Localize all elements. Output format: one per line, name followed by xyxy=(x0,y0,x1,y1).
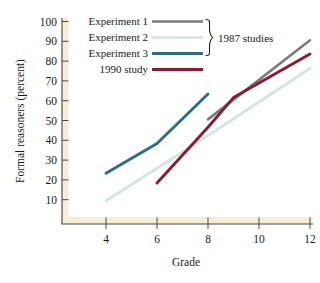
x-axis-band xyxy=(62,217,313,224)
x-tick-label: 6 xyxy=(154,233,160,245)
line-chart-svg: 100 90 80 70 60 50 40 30 20 10 4 6 8 10 … xyxy=(0,0,320,283)
y-tick-label: 10 xyxy=(46,194,58,206)
legend-label-experiment-1: Experiment 1 xyxy=(88,15,148,27)
legend-label-experiment-3: Experiment 3 xyxy=(88,47,148,59)
y-tick-label: 60 xyxy=(46,95,58,107)
legend-label-1990-study: 1990 study xyxy=(99,63,148,75)
y-tick-label: 70 xyxy=(46,75,58,87)
x-tick-label: 8 xyxy=(205,233,211,245)
legend-group-label: 1987 studies xyxy=(218,32,273,44)
x-axis-title: Grade xyxy=(172,256,200,268)
chart-container: 100 90 80 70 60 50 40 30 20 10 4 6 8 10 … xyxy=(0,0,320,283)
y-tick-label: 90 xyxy=(46,35,58,47)
x-tick-label: 12 xyxy=(304,233,316,245)
legend-label-experiment-2: Experiment 2 xyxy=(88,31,148,43)
y-tick-label: 30 xyxy=(46,154,58,166)
y-tick-label: 80 xyxy=(46,55,58,67)
y-tick-label: 100 xyxy=(40,16,58,28)
y-tick-label: 20 xyxy=(46,174,58,186)
x-tick-label: 10 xyxy=(253,233,265,245)
y-tick-label: 40 xyxy=(46,134,58,146)
y-axis-title: Formal reasoners (percent) xyxy=(14,59,27,183)
y-tick-label: 50 xyxy=(46,115,58,127)
x-tick-label: 4 xyxy=(103,233,109,245)
